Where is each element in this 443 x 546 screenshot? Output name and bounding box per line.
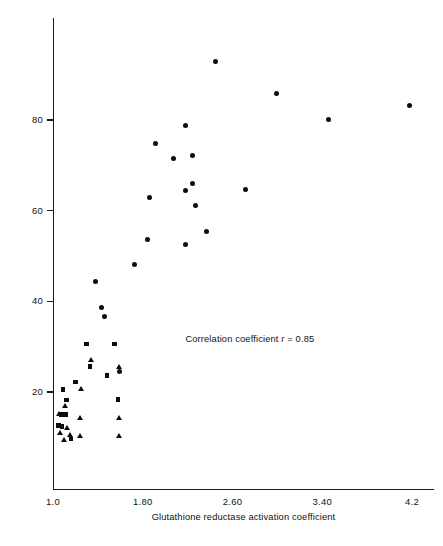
x-tick-label: 3.40 (302, 496, 342, 507)
x-tick-label: 2.60 (213, 496, 253, 507)
plot-area (53, 18, 435, 490)
x-tick-label: 1.0 (33, 496, 73, 507)
y-tick-label: 80 (13, 114, 43, 125)
y-tick-label: 40 (13, 295, 43, 306)
x-tick-label: 4.2 (392, 496, 432, 507)
x-tick-label: 1.80 (123, 496, 163, 507)
scatter-plot-figure: 20406080 1.01.802.603.404.2 Percentage o… (0, 0, 443, 546)
x-axis-title: Glutathione reductase activation coeffic… (53, 512, 434, 522)
y-tick-label: 20 (13, 386, 43, 397)
y-tick-label: 60 (13, 205, 43, 216)
